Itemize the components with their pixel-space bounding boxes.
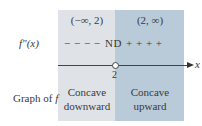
graph-of-f-label: Graph of f — [13, 92, 58, 104]
concavity-left-line2: downward — [64, 99, 110, 113]
concavity-right-line1: Concave — [131, 85, 169, 99]
graph-prefix: Graph of — [13, 92, 55, 104]
second-derivative-label: f″(x) — [19, 37, 39, 49]
graph-func: f — [55, 92, 58, 104]
x-axis-line — [58, 65, 190, 66]
sign-row-left: − − − − — [64, 37, 101, 49]
axis-variable: x — [195, 58, 200, 70]
interval-label-right: (2, ∞) — [137, 14, 163, 26]
concavity-right-line2: upward — [131, 99, 169, 113]
open-circle-icon — [112, 62, 119, 69]
axis-arrow-icon — [187, 62, 194, 68]
sign-row-right: + + + + — [126, 37, 163, 49]
sign-at-point: ND — [105, 37, 122, 49]
critical-point-label: 2 — [112, 69, 117, 80]
concavity-left-line1: Concave — [64, 85, 110, 99]
interval-label-left: (−∞, 2) — [71, 14, 103, 26]
concavity-right: Concave upward — [131, 85, 169, 113]
concavity-left: Concave downward — [64, 85, 110, 113]
